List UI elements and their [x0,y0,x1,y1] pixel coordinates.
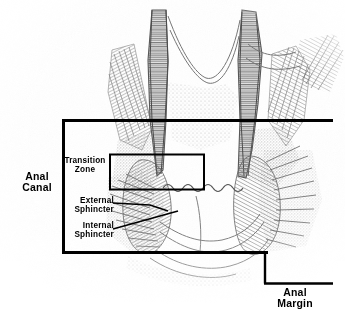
external-sphincter-leader [113,203,168,211]
label-anal-margin: Anal Margin [266,287,324,310]
internal-sphincter-leader [113,211,178,229]
annotation-overlay [0,0,345,316]
anatomy-figure: Anal Canal Transition Zone External Sphi… [0,0,345,316]
anal-margin-bracket [264,252,333,284]
label-internal-sphincter: Internal Sphincter [56,222,114,240]
label-transition-zone: Transition Zone [58,157,112,175]
transition-zone-box [110,155,204,190]
label-external-sphincter: External Sphincter [56,197,114,215]
label-anal-canal: Anal Canal [11,171,63,194]
